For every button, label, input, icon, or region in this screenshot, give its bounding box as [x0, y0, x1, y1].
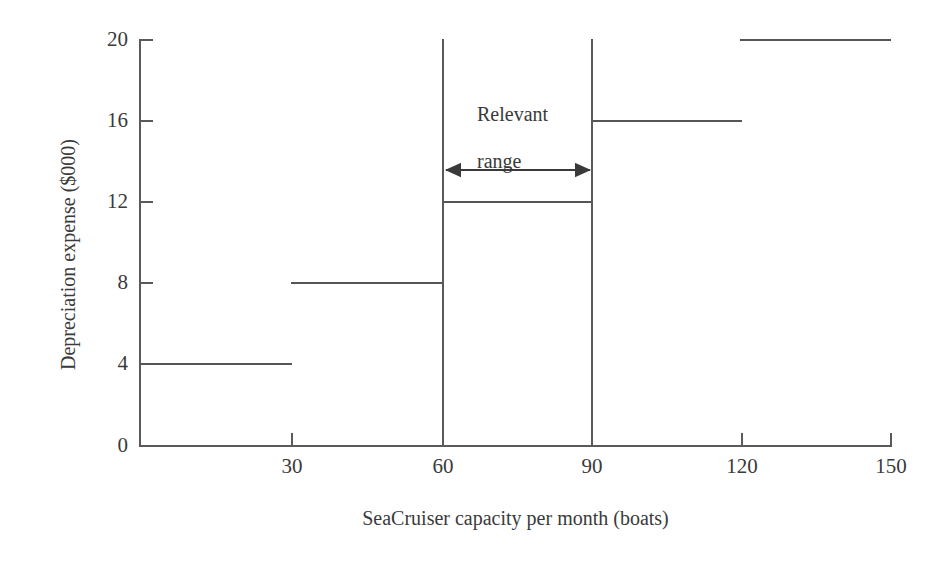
x-axis-line — [139, 445, 892, 447]
y-tick-16 — [141, 120, 153, 122]
step-segment-4 — [140, 363, 292, 365]
y-tick-label-4: 4 — [88, 353, 128, 374]
x-tick-label-120: 120 — [712, 456, 772, 477]
x-tick-120 — [741, 433, 743, 445]
x-axis-title: SeaCruiser capacity per month (boats) — [139, 507, 892, 530]
relevant-range-label-line1: Relevant — [477, 103, 548, 126]
x-tick-label-30: 30 — [262, 456, 322, 477]
step-segment-16 — [591, 120, 742, 122]
y-tick-label-16: 16 — [88, 110, 128, 131]
step-segment-20 — [740, 39, 891, 41]
x-tick-label-60: 60 — [413, 456, 473, 477]
x-tick-30 — [291, 433, 293, 445]
y-tick-label-12: 12 — [88, 191, 128, 212]
y-tick-label-0: 0 — [88, 435, 128, 456]
y-tick-20 — [141, 39, 153, 41]
relevant-range-right-divider — [591, 39, 593, 446]
x-tick-label-150: 150 — [861, 456, 921, 477]
step-segment-8 — [291, 282, 443, 284]
y-tick-12 — [141, 201, 153, 203]
y-axis-title: Depreciation expense ($000) — [57, 45, 80, 465]
x-tick-150 — [890, 433, 892, 445]
y-tick-8 — [141, 282, 153, 284]
step-segment-12 — [442, 201, 593, 203]
x-tick-label-90: 90 — [562, 456, 622, 477]
step-chart: 20 16 12 8 4 0 30 60 90 120 150 Relevant… — [0, 0, 951, 564]
relevant-range-left-divider — [442, 39, 444, 446]
y-tick-label-20: 20 — [88, 29, 128, 50]
y-tick-label-8: 8 — [88, 272, 128, 293]
relevant-range-double-arrow-icon — [440, 158, 596, 182]
y-axis-line — [139, 39, 141, 447]
y-tick-0 — [141, 445, 153, 447]
